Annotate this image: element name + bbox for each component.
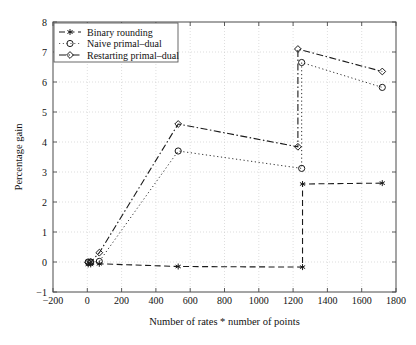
x-tick-label: 1000: [249, 295, 269, 306]
legend-label: Restarting primal–dual: [87, 50, 179, 61]
legend-label: Binary rounding: [87, 27, 153, 38]
legend: Binary roundingNaive primal–dualRestarti…: [54, 23, 179, 62]
y-tick-label: 2: [42, 197, 47, 208]
y-tick-label: −1: [36, 287, 47, 298]
y-tick-label: 7: [42, 47, 47, 58]
x-tick-label: 0: [85, 295, 90, 306]
y-tick-label: 4: [42, 137, 47, 148]
y-tick-label: 6: [42, 77, 47, 88]
y-tick-label: 3: [42, 167, 47, 178]
x-tick-label: 1600: [352, 295, 372, 306]
x-tick-label: 200: [114, 295, 129, 306]
y-axis-title: Percentage gain: [13, 123, 24, 191]
x-axis-title: Number of rates * number of points: [149, 316, 299, 327]
y-tick-label: 0: [42, 257, 47, 268]
x-tick-label: 800: [217, 295, 232, 306]
x-tick-label: 600: [183, 295, 198, 306]
x-tick-label: 400: [148, 295, 163, 306]
figure-container: −200020040060080010001200140016001800 −1…: [0, 0, 416, 345]
x-tick-label: 1400: [317, 295, 337, 306]
y-tick-label: 1: [42, 227, 47, 238]
x-tick-label: 1800: [386, 295, 406, 306]
y-tick-label: 8: [42, 17, 47, 28]
legend-label: Naive primal–dual: [87, 38, 162, 49]
x-tick-label: 1200: [283, 295, 303, 306]
percentage-gain-line-chart: −200020040060080010001200140016001800 −1…: [0, 0, 416, 345]
y-tick-label: 5: [42, 107, 47, 118]
